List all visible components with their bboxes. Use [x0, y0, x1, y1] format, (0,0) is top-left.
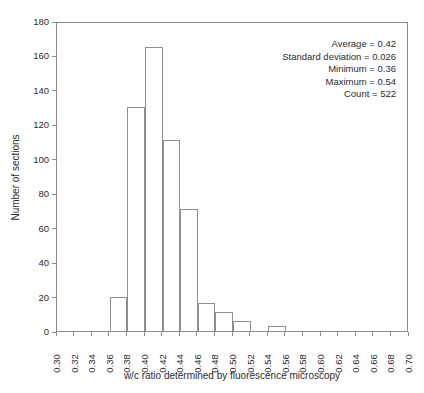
x-tick-mark [390, 332, 391, 336]
y-tick-label: 0 [44, 325, 49, 338]
histogram-bar [180, 209, 198, 331]
x-tick-label: 0.54 [261, 338, 274, 370]
stat-average: Average = 0.42 [228, 38, 396, 51]
x-tick-mark [73, 332, 74, 336]
x-tick-label: 0.68 [384, 338, 397, 370]
y-tick-label: 160 [33, 49, 49, 62]
x-tick-label: 0.56 [278, 338, 291, 370]
x-tick-mark [126, 332, 127, 336]
x-tick-label: 0.60 [314, 338, 327, 370]
x-tick-label: 0.34 [85, 338, 98, 370]
x-axis: 0.300.320.340.360.380.400.420.440.460.48… [56, 332, 409, 392]
x-tick-mark [267, 332, 268, 336]
x-tick-label: 0.30 [50, 338, 63, 370]
stats-annotation: Average = 0.42 Standard deviation = 0.02… [228, 38, 396, 101]
y-tick-mark [52, 297, 56, 298]
x-tick-mark [179, 332, 180, 336]
x-tick-mark [196, 332, 197, 336]
histogram-bar [268, 326, 286, 331]
stat-standard-deviation: Standard deviation = 0.026 [228, 51, 396, 64]
histogram-figure: 020406080100120140160180 Number of secti… [0, 0, 424, 393]
y-tick-mark [52, 90, 56, 91]
histogram-bar [163, 140, 181, 331]
y-tick-mark [52, 22, 56, 23]
x-tick-label: 0.62 [331, 338, 344, 370]
x-tick-label: 0.50 [226, 338, 239, 370]
x-tick-mark [372, 332, 373, 336]
x-tick-mark [320, 332, 321, 336]
y-tick-mark [52, 159, 56, 160]
x-tick-label: 0.70 [402, 338, 415, 370]
x-tick-label: 0.58 [296, 338, 309, 370]
y-tick-mark [52, 125, 56, 126]
x-tick-mark [91, 332, 92, 336]
y-tick-label: 120 [33, 118, 49, 131]
histogram-bar [198, 303, 216, 331]
y-tick-label: 80 [38, 187, 49, 200]
x-tick-mark [249, 332, 250, 336]
histogram-bar [110, 297, 128, 331]
y-tick-label: 100 [33, 153, 49, 166]
x-tick-label: 0.52 [243, 338, 256, 370]
histogram-bar [127, 107, 145, 331]
y-tick-label: 40 [38, 256, 49, 269]
x-tick-mark [337, 332, 338, 336]
x-tick-mark [284, 332, 285, 336]
x-tick-mark [144, 332, 145, 336]
x-tick-label: 0.44 [173, 338, 186, 370]
y-tick-label: 140 [33, 84, 49, 97]
x-tick-mark [108, 332, 109, 336]
x-tick-label: 0.36 [102, 338, 115, 370]
histogram-bar [145, 47, 163, 331]
y-tick-label: 60 [38, 222, 49, 235]
stat-minimum: Minimum = 0.36 [228, 63, 396, 76]
x-tick-mark [161, 332, 162, 336]
x-tick-mark [302, 332, 303, 336]
y-tick-mark [52, 194, 56, 195]
y-tick-mark [52, 56, 56, 57]
y-tick-mark [52, 228, 56, 229]
histogram-bar [233, 321, 251, 331]
x-tick-mark [355, 332, 356, 336]
y-tick-label: 20 [38, 291, 49, 304]
x-tick-label: 0.46 [190, 338, 203, 370]
x-tick-label: 0.64 [349, 338, 362, 370]
x-axis-title: w/c ratio determined by fluorescence mic… [56, 369, 408, 383]
x-tick-label: 0.32 [67, 338, 80, 370]
x-tick-label: 0.42 [155, 338, 168, 370]
x-tick-label: 0.66 [366, 338, 379, 370]
x-tick-mark [232, 332, 233, 336]
stat-count: Count = 522 [228, 88, 396, 101]
histogram-bar [215, 312, 233, 331]
x-tick-mark [214, 332, 215, 336]
y-tick-label: 180 [33, 15, 49, 28]
x-tick-mark [56, 332, 57, 336]
y-axis-title: Number of sections [9, 22, 23, 333]
x-tick-label: 0.40 [138, 338, 151, 370]
x-tick-mark [408, 332, 409, 336]
y-tick-mark [52, 263, 56, 264]
stat-maximum: Maximum = 0.54 [228, 76, 396, 89]
x-tick-label: 0.38 [120, 338, 133, 370]
x-tick-label: 0.48 [208, 338, 221, 370]
